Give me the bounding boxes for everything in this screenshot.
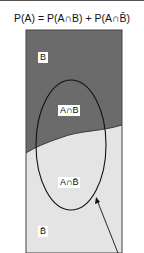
label-b: B	[38, 52, 48, 63]
venn-diagram	[0, 0, 144, 253]
label-a-and-b: A∩B	[58, 105, 80, 116]
label-a-and-not-b: A∩B̄	[58, 177, 80, 188]
label-not-b: B̄	[38, 226, 48, 237]
